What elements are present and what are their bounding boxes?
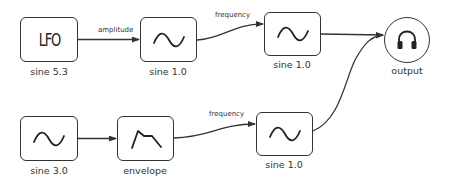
edge-label-amplitude: amplitude [98, 26, 133, 34]
headphones-icon [396, 30, 418, 50]
envelope-shape-icon [129, 128, 163, 150]
node-label-envelope: envelope [105, 165, 185, 176]
edge-osc4-output [313, 35, 383, 131]
node-label-osc1: sine 1.0 [128, 66, 208, 77]
edge-label-frequency-top: frequency [215, 11, 250, 19]
node-label-osc3: sine 3.0 [9, 165, 89, 176]
sine-wave-icon [152, 31, 186, 49]
edge-frequency-top [197, 24, 263, 40]
node-label-osc4: sine 1.0 [244, 159, 324, 170]
edge-frequency-bottom [174, 124, 255, 138]
sine-wave-icon [32, 130, 66, 148]
node-label-output: output [367, 65, 447, 76]
node-output[interactable] [384, 17, 430, 63]
synth-diagram: amplitude frequency frequency LFO sine 5… [0, 0, 454, 185]
node-osc4[interactable] [256, 112, 313, 156]
node-label-osc2: sine 1.0 [252, 59, 332, 70]
edge-label-frequency-bottom: frequency [209, 110, 244, 118]
node-osc1[interactable] [140, 17, 197, 62]
node-label-lfo: sine 5.3 [9, 66, 89, 77]
node-osc3[interactable] [20, 116, 78, 161]
node-envelope[interactable] [117, 116, 174, 161]
edge-osc2-output [321, 34, 383, 35]
node-lfo[interactable]: LFO [20, 17, 78, 62]
node-osc2[interactable] [264, 12, 321, 56]
lfo-text: LFO [38, 30, 59, 50]
sine-wave-icon [268, 125, 302, 143]
sine-wave-icon [276, 25, 310, 43]
